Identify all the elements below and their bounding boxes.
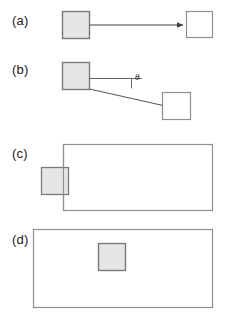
panel-d-graphics [0, 0, 229, 314]
shaded-square-d [99, 244, 126, 271]
figure-canvas: (a) (b) θ (c) [0, 0, 229, 314]
